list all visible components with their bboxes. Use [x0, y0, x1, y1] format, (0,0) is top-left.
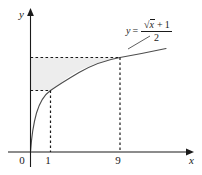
plus-sign: + — [155, 20, 165, 30]
numerator-constant: 1 — [165, 20, 170, 30]
y-axis-arrow-icon — [27, 8, 34, 16]
x-tick-label-9: 9 — [113, 155, 123, 166]
fraction-denominator: 2 — [154, 32, 159, 43]
equation-fraction: √ x + 1 2 — [141, 19, 172, 43]
graph-canvas — [0, 0, 202, 175]
shaded-region — [31, 58, 121, 91]
figure-container: y x 0 1 9 y = √ x + 1 2 — [0, 0, 202, 175]
y-axis-label: y — [19, 9, 24, 20]
equation-annotation: y = √ x + 1 2 — [126, 19, 172, 43]
x-axis-label: x — [189, 155, 194, 166]
fraction-numerator: √ x + 1 — [141, 19, 172, 31]
x-tick-label-0: 0 — [17, 155, 27, 166]
x-tick-label-1: 1 — [43, 155, 53, 166]
radicand: x — [150, 19, 155, 30]
equation-equals-sign: = — [132, 26, 138, 36]
square-root-icon: √ x — [143, 19, 155, 30]
equation-left-side: y — [126, 26, 130, 36]
